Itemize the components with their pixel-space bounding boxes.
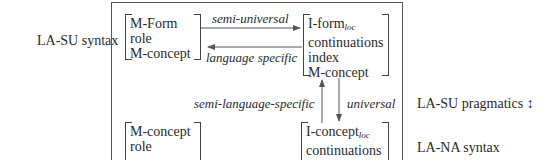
language-specific-label: language specific bbox=[206, 50, 297, 65]
la-su-pragmatics-text: LA-SU pragmatics bbox=[417, 96, 523, 111]
semi-universal-label: semi-universal bbox=[212, 11, 289, 26]
up-down-arrow-icon: ↕ bbox=[527, 96, 534, 111]
la-na-syntax-label: LA-NA syntax bbox=[417, 140, 500, 156]
semi-language-specific-label: semi-language-specific bbox=[194, 96, 315, 111]
universal-label: universal bbox=[347, 96, 395, 111]
la-su-pragmatics-label: LA-SU pragmatics ↕ bbox=[417, 96, 534, 112]
